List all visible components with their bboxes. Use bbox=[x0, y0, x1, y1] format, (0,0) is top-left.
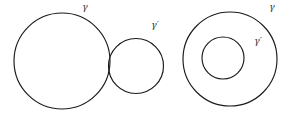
circle-gamma-prime-right bbox=[202, 37, 244, 79]
tangent-circles-figure: γ γ′ γ γ′ bbox=[0, 0, 288, 116]
label-gamma-prime-left: γ′ bbox=[151, 20, 158, 30]
panel-external-tangency: γ γ′ bbox=[14, 2, 164, 110]
label-gamma-right: γ bbox=[269, 2, 275, 12]
circle-gamma-prime-left bbox=[109, 39, 164, 94]
panel-internal-tangency: γ γ′ bbox=[183, 2, 277, 107]
circle-gamma-left bbox=[14, 13, 110, 109]
figure-canvas: γ γ′ γ γ′ bbox=[0, 0, 288, 116]
circle-gamma-right bbox=[183, 12, 277, 106]
label-gamma-left: γ bbox=[82, 2, 88, 12]
label-gamma-prime-right: γ′ bbox=[254, 36, 261, 46]
